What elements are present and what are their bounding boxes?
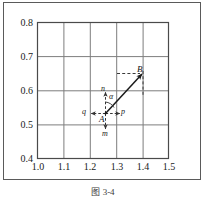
direction-label-m: m bbox=[102, 129, 108, 138]
direction-label-n: n bbox=[101, 84, 105, 93]
y-tick-label: 0.6 bbox=[9, 85, 33, 96]
y-tick-label: 0.7 bbox=[9, 51, 33, 62]
y-tick-label: 0.8 bbox=[9, 17, 33, 28]
plot-area: 0.8 0.7 0.6 0.5 0.4 1.0 1.1 1.2 1.3 1.4 … bbox=[0, 0, 206, 197]
x-tick-label: 1.3 bbox=[105, 161, 129, 172]
x-tick-label: 1.2 bbox=[78, 161, 102, 172]
x-tick-label: 1.4 bbox=[131, 161, 155, 172]
direction-label-q: q bbox=[82, 107, 86, 116]
figure-root: 0.8 0.7 0.6 0.5 0.4 1.0 1.1 1.2 1.3 1.4 … bbox=[0, 0, 206, 197]
x-tick-label: 1.0 bbox=[26, 161, 50, 172]
figure-caption: 图 3-4 bbox=[0, 186, 206, 197]
x-tick-label: 1.1 bbox=[52, 161, 76, 172]
y-tick-label: 0.5 bbox=[9, 119, 33, 130]
x-tick-label: 1.5 bbox=[157, 161, 181, 172]
angle-label-alpha: α bbox=[109, 92, 113, 101]
point-label-b: B bbox=[137, 64, 143, 74]
point-label-a: A bbox=[99, 114, 105, 124]
direction-label-p: p bbox=[121, 107, 125, 116]
